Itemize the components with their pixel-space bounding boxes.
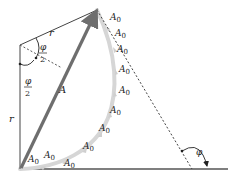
half-angle-arc-bottom [20, 60, 34, 65]
svg-text:2: 2 [25, 89, 30, 98]
svg-text:A0: A0 [116, 44, 128, 56]
svg-text:A0: A0 [27, 154, 39, 166]
svg-text:A0: A0 [114, 28, 126, 40]
svg-text:2: 2 [40, 55, 45, 64]
radius-top-label: r [49, 27, 55, 38]
phi-angle-label: φ [196, 147, 203, 157]
phi-angle-arc [182, 147, 207, 166]
radius-top-line [20, 10, 97, 45]
svg-text:A0: A0 [109, 12, 121, 24]
svg-text:A0: A0 [43, 150, 55, 162]
half-angle-arc-top-dot [35, 57, 38, 60]
resultant-label: A [58, 84, 66, 95]
half-angle-arc-bottom-dot [19, 63, 22, 66]
svg-text:A0: A0 [118, 85, 130, 97]
svg-text:φ: φ [25, 76, 32, 86]
phasor-arc [20, 10, 114, 169]
radius-left-label: r [9, 113, 15, 124]
tangent-dashed-line [97, 10, 192, 169]
svg-text:A0: A0 [118, 64, 130, 76]
phi-angle-arc-dot [181, 150, 184, 153]
half-angle-top-label: φ 2 [39, 42, 47, 64]
phasor-diagram: r r A φ 2 φ 2 φ A0 A0 A0 A0 A0 A0 A0 A0 … [0, 0, 232, 177]
svg-text:φ: φ [40, 42, 47, 52]
half-angle-bottom-label: φ 2 [24, 76, 32, 98]
